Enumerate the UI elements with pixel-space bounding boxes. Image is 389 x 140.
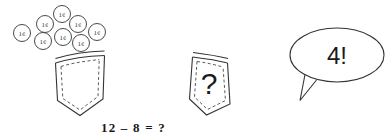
pocket-left-icon [56,51,105,116]
pocket-left-outline [56,56,105,116]
coin-1: 1¢ [14,25,31,42]
coin-label: 1¢ [75,21,83,29]
coin-4: 1¢ [70,16,87,33]
coin-7: 1¢ [55,29,72,46]
coin-label: 1¢ [60,34,68,42]
coin-3: 1¢ [54,6,71,23]
pocket-question-mark: ? [201,67,218,100]
coin-8: 1¢ [73,35,90,52]
pocket-left-stitching [61,60,99,111]
coin-label: 1¢ [19,30,27,38]
coin-label: 1¢ [94,29,102,37]
coin-label: 1¢ [59,11,67,19]
pocket-right-band-bottom [193,57,228,63]
coin-6: 1¢ [35,33,52,50]
equation-label: 12 – 8 = ? [101,120,166,135]
coin-label: 1¢ [42,21,50,29]
speech-bubble-icon: 4! [290,28,384,101]
illustration-canvas: 1¢ 1¢ 1¢ 1¢ 1¢ 1¢ [0,0,389,140]
illustration-svg: 1¢ 1¢ 1¢ 1¢ 1¢ 1¢ [0,0,389,140]
coin-5: 1¢ [89,24,106,41]
coin-label: 1¢ [40,38,48,46]
pocket-right-icon: ? [190,53,231,116]
coin-label: 1¢ [78,40,86,48]
speech-bubble-text: 4! [327,42,347,69]
coin-group: 1¢ 1¢ 1¢ 1¢ 1¢ 1¢ [14,6,106,52]
coin-2: 1¢ [37,16,54,33]
